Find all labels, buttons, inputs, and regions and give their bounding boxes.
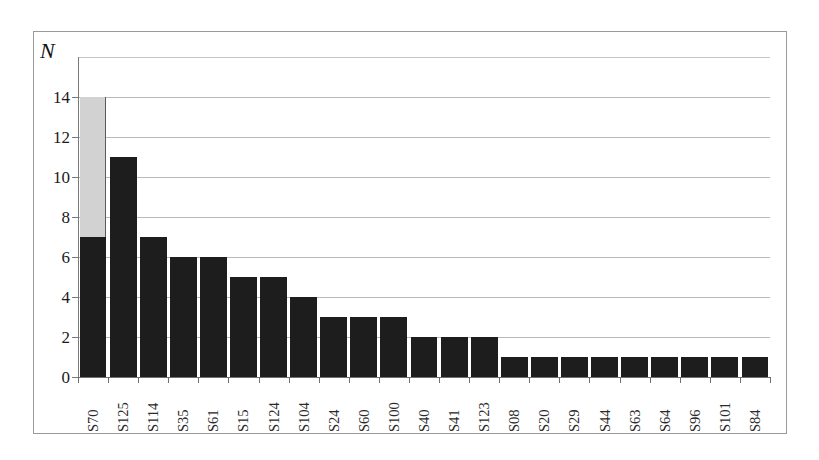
x-axis-category-label: S70 [85, 386, 101, 432]
bar[interactable] [411, 57, 438, 377]
x-axis-tick [740, 378, 741, 383]
bar[interactable] [110, 57, 137, 377]
x-axis-tick [108, 378, 109, 383]
y-axis-tick [72, 257, 78, 258]
bar[interactable] [681, 57, 708, 377]
bar[interactable] [621, 57, 648, 377]
x-axis-category-label: S29 [566, 386, 582, 432]
bar[interactable] [501, 57, 528, 377]
bar-segment-primary [110, 157, 137, 377]
x-axis-category-label: S123 [476, 386, 492, 432]
x-axis-tick [349, 378, 350, 383]
bar[interactable] [230, 57, 257, 377]
x-axis-tick [650, 378, 651, 383]
bar-segment-primary [681, 357, 708, 377]
y-axis-tick-label: 4 [30, 289, 70, 306]
bar-segment-primary [651, 357, 678, 377]
x-axis-category-label: S35 [175, 386, 191, 432]
plot-area [78, 57, 770, 377]
x-axis-tick [589, 378, 590, 383]
y-axis-tick-label: 0 [30, 369, 70, 386]
x-axis-tick [379, 378, 380, 383]
y-axis-line [78, 57, 79, 378]
x-axis-category-label: S104 [296, 386, 312, 432]
bar-segment-primary [411, 337, 438, 377]
bar[interactable] [471, 57, 498, 377]
x-axis-tick [770, 378, 771, 383]
y-axis-tick-label: 10 [30, 169, 70, 186]
bar-segment-primary [200, 257, 227, 377]
bar-segment-primary [501, 357, 528, 377]
x-axis-tick [198, 378, 199, 383]
bar[interactable] [170, 57, 197, 377]
bar-segment-primary [621, 357, 648, 377]
x-axis-category-label: S20 [536, 386, 552, 432]
x-axis-tick [499, 378, 500, 383]
bar[interactable] [350, 57, 377, 377]
y-axis-tick-labels: 02468101214 [26, 0, 70, 460]
x-axis-category-label: S08 [506, 386, 522, 432]
bar[interactable] [531, 57, 558, 377]
x-axis-tick [529, 378, 530, 383]
y-axis-tick-label: 8 [30, 209, 70, 226]
x-axis-category-label: S114 [145, 386, 161, 432]
x-axis-category-label: S44 [597, 386, 613, 432]
bar[interactable] [140, 57, 167, 377]
bar[interactable] [200, 57, 227, 377]
y-axis-tick [72, 177, 78, 178]
x-axis-tick [319, 378, 320, 383]
bar-segment-primary [531, 357, 558, 377]
y-axis-tick [72, 297, 78, 298]
bar[interactable] [651, 57, 678, 377]
bar-segment-secondary [80, 97, 107, 237]
x-axis-tick [409, 378, 410, 383]
bar[interactable] [260, 57, 287, 377]
x-axis-category-label: S61 [205, 386, 221, 432]
x-axis-category-label: S84 [747, 386, 763, 432]
x-axis-tick [259, 378, 260, 383]
bar[interactable] [320, 57, 347, 377]
x-axis-category-label: S63 [627, 386, 643, 432]
bar[interactable] [290, 57, 317, 377]
bar-segment-primary [561, 357, 588, 377]
x-axis-tick [168, 378, 169, 383]
y-axis-tick-label: 12 [30, 129, 70, 146]
x-axis-category-label: S96 [687, 386, 703, 432]
bar[interactable] [711, 57, 738, 377]
y-axis-tick [72, 137, 78, 138]
y-axis-tick [72, 337, 78, 338]
bar[interactable] [441, 57, 468, 377]
bar[interactable] [591, 57, 618, 377]
bar-segment-primary [320, 317, 347, 377]
bar[interactable] [380, 57, 407, 377]
bar-segment-primary [140, 237, 167, 377]
y-axis-tick-label: 14 [30, 89, 70, 106]
bar-segment-primary [260, 277, 287, 377]
x-axis-line [78, 377, 771, 378]
bar[interactable] [742, 57, 769, 377]
x-axis-category-label: S40 [416, 386, 432, 432]
y-axis-tick [72, 97, 78, 98]
x-axis-tick [559, 378, 560, 383]
x-axis-category-label: S101 [717, 386, 733, 432]
bar[interactable] [80, 57, 107, 377]
bar-segment-primary [591, 357, 618, 377]
bar-segment-primary [380, 317, 407, 377]
x-axis-category-label: S41 [446, 386, 462, 432]
bar[interactable] [561, 57, 588, 377]
bar-segment-primary [290, 297, 317, 377]
x-axis-tick [78, 378, 79, 383]
x-axis-tick [680, 378, 681, 383]
x-axis-tick [138, 378, 139, 383]
bar-segment-primary [471, 337, 498, 377]
bar-segment-primary [170, 257, 197, 377]
y-axis-tick-label: 2 [30, 329, 70, 346]
x-axis-tick [289, 378, 290, 383]
y-axis-tick [72, 217, 78, 218]
x-axis-category-label: S15 [235, 386, 251, 432]
x-axis-category-label: S60 [356, 386, 372, 432]
x-axis-category-label: S64 [657, 386, 673, 432]
x-axis-tick [228, 378, 229, 383]
x-axis-category-label: S100 [386, 386, 402, 432]
bar-segment-primary [80, 237, 107, 377]
